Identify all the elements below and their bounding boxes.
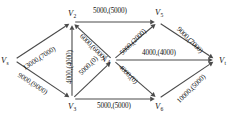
arrow-head-icon [150,20,155,25]
vertex-subscript: 5 [160,12,163,18]
vertex-label-vs: Vs [1,56,8,65]
edge-label-v2-v5: 5000,(5000) [93,8,127,15]
vertex-label-v2: V2 [68,9,76,18]
arrow-head-icon [70,25,75,30]
edge-v3-v6 [75,97,155,102]
vertex-label-v6: V6 [155,102,163,111]
vertex-subscript: 4 [107,59,110,65]
vertex-subscript: 6 [160,106,163,112]
vertex-label-vt: Vt [219,56,226,65]
vertex-label-v3: V3 [68,102,76,111]
edge-v4-vt [116,58,213,63]
edge-label-v3-v6: 5000,(5000) [97,103,131,110]
vertex-subscript: t [224,60,226,66]
vertex-subscript: 3 [73,106,76,112]
vertex-subscript: s [6,60,8,66]
arrow-head-icon [208,58,213,63]
vertex-subscript: 2 [73,13,76,19]
edge-label-v4-vt: 4000,(4000) [142,50,176,57]
edge-v2-v5 [75,20,155,25]
vertex-label-v5: V5 [155,8,163,17]
edge-label-v3-v2: 4000,(4000) [67,50,74,84]
vertex-label-v4: V4 [102,55,110,64]
network-flow-diagram: 13000,(7000)9000,(9000)4000,(4000)5000,(… [0,0,231,120]
